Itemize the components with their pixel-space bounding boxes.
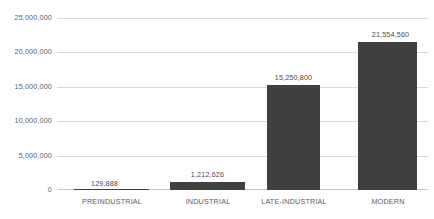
y-axis-tick-label: 20,000,000 (0, 48, 52, 56)
bar-preindustrial[interactable] (74, 189, 149, 190)
data-label-modern: 21,554,560 (343, 31, 434, 39)
x-axis-tick-label-modern: MODERN (333, 197, 434, 206)
y-axis-tick-label: 5,000,000 (0, 152, 52, 160)
bars-layer (57, 18, 428, 190)
bar-industrial[interactable] (170, 182, 245, 190)
y-axis-tick-label: 15,000,000 (0, 83, 52, 91)
bar-late-industrial[interactable] (267, 85, 320, 190)
x-axis-labels: PREINDUSTRIAL INDUSTRIAL LATE-INDUSTRIAL… (57, 197, 428, 211)
y-axis-tick-label: 0 (0, 186, 52, 194)
x-axis-tick-label-preindustrial: PREINDUSTRIAL (57, 197, 167, 206)
data-label-late-industrial: 15,250,800 (246, 74, 341, 82)
bar-chart: 25,000,000 20,000,000 15,000,000 10,000,… (0, 0, 434, 219)
data-label-industrial: 1,212,626 (160, 171, 255, 179)
y-axis-tick-label: 25,000,000 (0, 14, 52, 22)
bar-modern[interactable] (358, 42, 417, 190)
data-label-preindustrial: 129,888 (57, 180, 152, 188)
y-axis-tick-label: 10,000,000 (0, 117, 52, 125)
y-axis-labels: 25,000,000 20,000,000 15,000,000 10,000,… (0, 0, 52, 219)
